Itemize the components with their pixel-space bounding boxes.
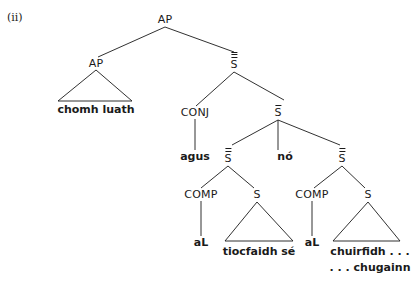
node-conj: CONJ	[181, 107, 210, 119]
node-comp-left: COMP	[184, 189, 217, 201]
yield-chomh-luath: chomh luath	[57, 104, 134, 116]
node-s-single-bar: S	[274, 107, 281, 119]
yield-tiocfaidh-se: tiocfaidh sé	[223, 246, 296, 258]
word-agus: agus	[180, 151, 210, 163]
double-bar-mark	[339, 148, 345, 153]
single-bar-mark	[275, 105, 281, 108]
node-s-double-bar-right-label: S	[338, 152, 345, 165]
word-al-right: aL	[305, 237, 319, 249]
node-root-ap: AP	[158, 14, 173, 26]
node-s-single-bar-label: S	[274, 106, 281, 119]
node-s-left: S	[253, 189, 260, 201]
word-al-left: aL	[194, 237, 208, 249]
node-comp-right: COMP	[295, 189, 328, 201]
node-s-double-bar-right: S	[338, 153, 345, 165]
example-number: (ii)	[7, 11, 23, 24]
yield-chugainn: . . . chugainn	[330, 262, 411, 274]
word-no: nó	[277, 151, 292, 163]
node-s-double-bar-left-label: S	[224, 152, 231, 165]
node-s-triple-bar: S	[230, 59, 237, 71]
yield-chuirfidh: chuirfidh . . .	[330, 246, 409, 258]
triple-bar-mark	[231, 52, 237, 60]
node-s-double-bar-left: S	[224, 153, 231, 165]
node-ap: AP	[89, 58, 104, 70]
double-bar-mark	[225, 148, 231, 153]
node-s-triple-bar-label: S	[230, 58, 237, 71]
node-s-right: S	[364, 189, 371, 201]
